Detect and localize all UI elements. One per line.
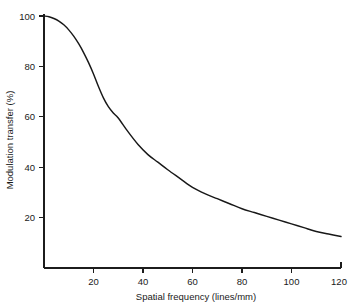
x-tick-label-60: 60: [187, 276, 198, 287]
mtf-chart-figure: 100 80 60 40 20 20 40 60 80 100 120 Spat…: [0, 0, 355, 306]
x-tick-label-100: 100: [284, 276, 300, 287]
y-tick-label-60: 60: [24, 111, 35, 122]
y-tick-label-40: 40: [24, 162, 35, 173]
y-tick-label-100: 100: [19, 11, 35, 22]
y-axis-ticks: [39, 16, 44, 218]
x-tick-label-40: 40: [138, 276, 149, 287]
x-tick-label-80: 80: [237, 276, 248, 287]
x-tick-label-120: 120: [331, 276, 347, 287]
y-tick-label-80: 80: [24, 61, 35, 72]
y-tick-label-20: 20: [24, 212, 35, 223]
chart-plot-area: 100 80 60 40 20 20 40 60 80 100 120 Spat…: [0, 0, 355, 306]
x-axis-title: Spatial frequency (lines/mm): [136, 291, 256, 302]
mtf-curve: [44, 16, 341, 237]
y-axis-title: Modulation transfer (%): [4, 91, 15, 190]
x-tick-label-20: 20: [88, 276, 99, 287]
